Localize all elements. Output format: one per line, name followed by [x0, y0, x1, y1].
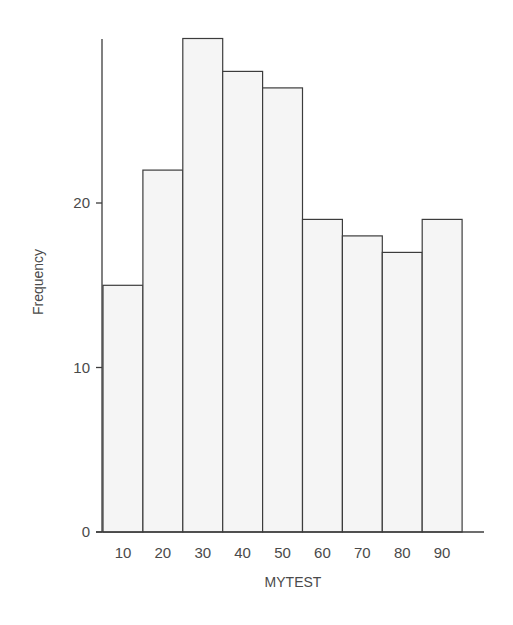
histogram-bar-50	[263, 88, 303, 532]
histogram-bar-90	[422, 219, 462, 532]
x-tick-label: 50	[274, 544, 291, 561]
y-tick-label: 20	[73, 194, 90, 211]
x-tick-label: 10	[115, 544, 132, 561]
x-tick-label: 40	[234, 544, 251, 561]
histogram-chart: 01020 102030405060708090 MYTEST Frequenc…	[0, 0, 513, 625]
histogram-bar-40	[223, 71, 263, 532]
x-axis-title: MYTEST	[265, 574, 322, 590]
bars-group	[103, 39, 462, 533]
x-tick-label: 70	[354, 544, 371, 561]
y-tick-label: 0	[82, 523, 90, 540]
x-axis-ticks: 102030405060708090	[115, 544, 451, 561]
histogram-bar-10	[103, 285, 143, 532]
y-tick-label: 10	[73, 359, 90, 376]
histogram-bar-20	[143, 170, 183, 532]
x-tick-label: 30	[194, 544, 211, 561]
x-tick-label: 80	[394, 544, 411, 561]
histogram-bar-30	[183, 39, 223, 533]
x-tick-label: 20	[154, 544, 171, 561]
histogram-bar-70	[342, 236, 382, 532]
histogram-bar-80	[382, 252, 422, 532]
y-axis-title: Frequency	[30, 249, 46, 315]
histogram-bar-60	[303, 219, 343, 532]
x-tick-label: 60	[314, 544, 331, 561]
x-tick-label: 90	[434, 544, 451, 561]
y-axis-ticks: 01020	[73, 194, 102, 540]
